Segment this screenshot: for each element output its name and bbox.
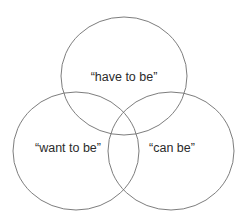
label-have-to-be: “have to be” bbox=[91, 70, 158, 84]
label-want-to-be: “want to be” bbox=[35, 141, 101, 155]
label-can-be: “can be” bbox=[149, 141, 195, 155]
venn-diagram: “have to be” “want to be” “can be” bbox=[0, 0, 247, 222]
